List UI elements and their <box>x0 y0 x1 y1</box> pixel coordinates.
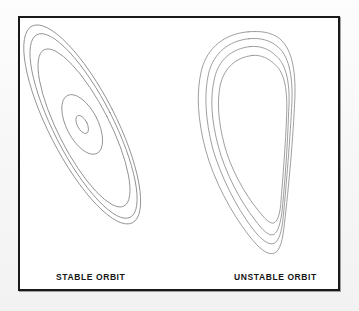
caption-stable-orbit: STABLE ORBIT <box>56 272 125 282</box>
plot-area <box>20 18 338 289</box>
figure-page: STABLE ORBIT UNSTABLE ORBIT <box>0 0 359 311</box>
stable-orbit-group <box>20 18 162 238</box>
caption-unstable-orbit: UNSTABLE ORBIT <box>234 272 317 282</box>
stable-orbit-contour-1 <box>73 113 91 135</box>
figure-frame: STABLE ORBIT UNSTABLE ORBIT <box>18 16 340 291</box>
orbit-plot-svg <box>20 18 338 289</box>
stable-orbit-contour-5 <box>20 18 162 238</box>
unstable-orbit-group <box>198 31 295 253</box>
unstable-orbit-contour-1 <box>218 55 286 223</box>
